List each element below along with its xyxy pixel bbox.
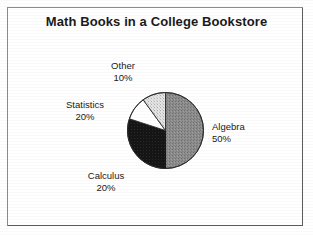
pie-label-algebra: Algebra 50%: [212, 121, 272, 145]
page-title: Math Books in a College Bookstore: [0, 14, 313, 29]
pie-label-calculus: Calculus 20%: [75, 170, 137, 194]
scanned-chart-page: Math Books in a College Bookstore: [0, 0, 313, 235]
pie-label-statistics-value: 20%: [53, 111, 117, 123]
pie-label-calculus-name: Calculus: [88, 170, 124, 181]
pie-label-algebra-name: Algebra: [212, 121, 245, 132]
pie-label-other: Other 10%: [96, 60, 150, 84]
pie-chart-svg: [127, 92, 204, 169]
pie-label-statistics-name: Statistics: [66, 99, 104, 110]
pie-slice-algebra: [166, 93, 204, 169]
pie-label-calculus-value: 20%: [75, 182, 137, 194]
pie-label-other-name: Other: [111, 60, 135, 71]
pie-label-statistics: Statistics 20%: [53, 99, 117, 123]
pie-chart: [127, 92, 204, 169]
pie-label-algebra-value: 50%: [212, 133, 272, 145]
pie-label-other-value: 10%: [96, 72, 150, 84]
